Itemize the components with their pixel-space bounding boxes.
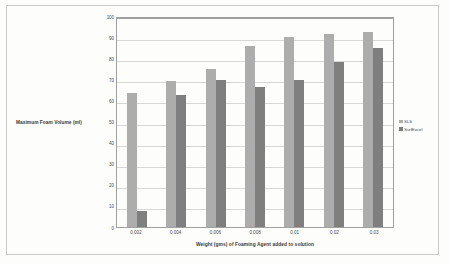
- x-axis-tick-labels: 0.0020.0040.0060.0080.010.020.03: [116, 230, 394, 236]
- bar-surfexcel-0.008[interactable]: [255, 87, 265, 227]
- y-axis-tick-label: 50: [92, 120, 114, 125]
- legend-label: SurfExcel: [404, 127, 422, 132]
- y-axis-tick-label: 60: [92, 99, 114, 104]
- bar-group: [314, 19, 353, 227]
- bar-surfexcel-0.01[interactable]: [294, 80, 304, 227]
- y-axis-tick-label: 10: [92, 204, 114, 209]
- x-axis-tick-label: 0.004: [156, 230, 196, 236]
- legend-item-surfexcel[interactable]: SurfExcel: [399, 127, 443, 132]
- x-axis-tick-label: 0.03: [354, 230, 394, 236]
- bar-sls-0.002[interactable]: [127, 93, 137, 227]
- bar-group: [354, 19, 393, 227]
- bar-surfexcel-0.02[interactable]: [334, 62, 344, 227]
- y-axis-tick-label: 20: [92, 183, 114, 188]
- bar-sls-0.004[interactable]: [166, 81, 176, 227]
- bar-sls-0.006[interactable]: [206, 69, 216, 227]
- bar-sls-0.02[interactable]: [324, 34, 334, 227]
- bar-group: [156, 19, 195, 227]
- bar-surfexcel-0.03[interactable]: [373, 48, 383, 227]
- bar-group: [196, 19, 235, 227]
- bar-sls-0.03[interactable]: [363, 32, 373, 227]
- chart-legend: SLSSurfExcel: [399, 119, 443, 134]
- y-axis-tick-label: 40: [92, 141, 114, 146]
- bar-series-container: [117, 19, 393, 227]
- bar-group: [235, 19, 274, 227]
- legend-item-sls[interactable]: SLS: [399, 119, 443, 124]
- legend-label: SLS: [404, 119, 412, 124]
- bar-sls-0.01[interactable]: [284, 37, 294, 227]
- y-axis-title: Maximum Foam Volume (ml): [16, 120, 82, 126]
- y-axis-tick-label: 90: [92, 36, 114, 41]
- x-axis-tick-label: 0.02: [315, 230, 355, 236]
- y-axis-tick-label: 80: [92, 57, 114, 62]
- plot-area: [116, 17, 394, 228]
- x-axis-title: Weight (gms) of Foaming Agent added to s…: [116, 241, 394, 248]
- y-axis-tick-label: 30: [92, 162, 114, 167]
- y-axis-tick-label: 70: [92, 78, 114, 83]
- legend-swatch-icon: [399, 127, 403, 131]
- x-axis-tick-label: 0.01: [275, 230, 315, 236]
- bar-sls-0.008[interactable]: [245, 46, 255, 227]
- x-axis-tick-label: 0.006: [195, 230, 235, 236]
- bar-group: [117, 19, 156, 227]
- bar-group: [275, 19, 314, 227]
- bar-surfexcel-0.002[interactable]: [137, 211, 147, 227]
- y-axis-tick-label: 100: [92, 15, 114, 20]
- x-axis-tick-label: 0.002: [116, 230, 156, 236]
- y-axis-tick-labels: 1009080706050403020100: [92, 17, 114, 228]
- bar-surfexcel-0.006[interactable]: [216, 80, 226, 227]
- chart-page: Maximum Foam Volume (ml) 100908070605040…: [0, 0, 449, 264]
- x-axis-tick-label: 0.008: [235, 230, 275, 236]
- bar-surfexcel-0.004[interactable]: [176, 95, 186, 227]
- y-axis-tick-label: 0: [92, 226, 114, 231]
- legend-swatch-icon: [399, 120, 403, 124]
